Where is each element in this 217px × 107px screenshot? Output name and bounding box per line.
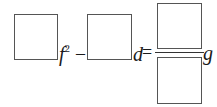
- variable-f: f2: [59, 44, 70, 64]
- numerator-blank[interactable]: [157, 3, 202, 49]
- minus-operator: –: [76, 44, 85, 62]
- variable-g: g: [203, 43, 213, 63]
- fraction-bar: [155, 52, 204, 53]
- exponent: 2: [65, 42, 71, 54]
- denominator-blank[interactable]: [157, 57, 202, 104]
- coefficient-d-blank[interactable]: [87, 14, 132, 60]
- coefficient-f-blank[interactable]: [14, 14, 58, 60]
- equals-operator: =: [142, 43, 152, 61]
